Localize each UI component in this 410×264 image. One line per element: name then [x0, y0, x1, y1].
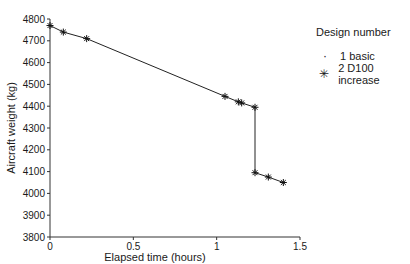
- asterisk-marker-icon: [83, 35, 90, 42]
- y-tick-label: 3900: [23, 210, 46, 221]
- asterisk-marker-icon: [265, 174, 272, 181]
- asterisk-marker-icon: [252, 169, 259, 176]
- legend-label: 1 basic: [340, 50, 375, 62]
- asterisk-marker-icon: [47, 22, 54, 29]
- y-tick-label: 4300: [23, 123, 46, 134]
- asterisk-marker-icon: [60, 29, 67, 36]
- y-tick-label: 4200: [23, 144, 46, 155]
- y-axis-label: Aircraft weight (kg): [5, 82, 17, 174]
- y-tick-label: 4100: [23, 166, 46, 177]
- x-tick-label: 1: [214, 241, 220, 252]
- dot-marker-icon: ·: [316, 49, 334, 63]
- legend-title: Design number: [316, 26, 410, 38]
- y-tick-label: 3800: [23, 232, 46, 243]
- legend-label: 2 D100 increase: [338, 62, 410, 86]
- x-tick-label: 0: [47, 241, 53, 252]
- asterisk-marker-icon: [252, 104, 259, 111]
- legend-item-d100: ✳ 2 D100 increase: [316, 65, 410, 83]
- y-tick-label: 4000: [23, 188, 46, 199]
- asterisk-marker-icon: ✳: [316, 67, 332, 81]
- asterisk-marker-icon: [238, 99, 245, 106]
- legend: Design number · 1 basic ✳ 2 D100 increas…: [316, 26, 410, 83]
- asterisk-marker-icon: [280, 179, 287, 186]
- asterisk-marker-icon: [222, 93, 229, 100]
- y-tick-label: 4600: [23, 57, 46, 68]
- y-tick-label: 4700: [23, 35, 46, 46]
- x-axis-label: Elapsed time (hours): [104, 251, 206, 263]
- x-tick-label: 1.5: [293, 241, 307, 252]
- y-tick-label: 4500: [23, 79, 46, 90]
- series-line: [50, 26, 283, 183]
- y-tick-label: 4400: [23, 101, 46, 112]
- y-tick-label: 4800: [23, 14, 46, 25]
